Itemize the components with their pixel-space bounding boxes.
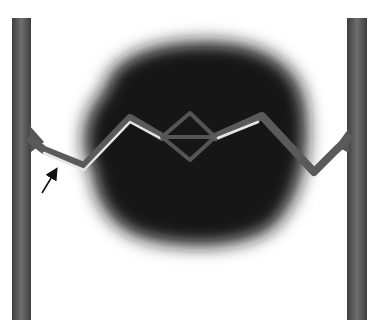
- left-electrode: [12, 18, 44, 320]
- molecular-junction-diagram: [0, 0, 375, 331]
- pointer-arrow: [42, 170, 56, 193]
- electron-cloud: [84, 42, 307, 246]
- right-electrode: [336, 18, 367, 320]
